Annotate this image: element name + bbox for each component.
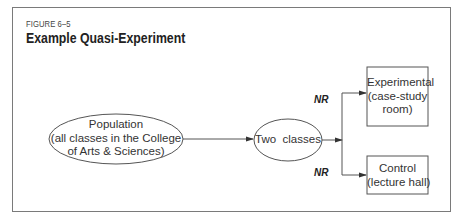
control-title: Control <box>367 162 428 176</box>
experimental-node: Experimental (case-study room) <box>367 76 428 117</box>
experimental-desc-2: room) <box>367 103 428 117</box>
experimental-title: Experimental <box>367 76 428 90</box>
two-classes-label: Two classes <box>254 133 322 147</box>
control-desc: (lecture hall) <box>367 176 428 190</box>
population-desc-2: of Arts & Sciences) <box>49 145 183 159</box>
population-node: Population (all classes in the College o… <box>49 118 183 159</box>
two-classes-node: Two classes <box>254 133 322 147</box>
nr-label-upper: NR <box>314 94 328 105</box>
nr-label-lower: NR <box>314 167 328 178</box>
population-title: Population <box>49 118 183 132</box>
control-node: Control (lecture hall) <box>367 162 428 189</box>
population-desc-1: (all classes in the College <box>49 132 183 146</box>
experimental-desc-1: (case-study <box>367 90 428 104</box>
